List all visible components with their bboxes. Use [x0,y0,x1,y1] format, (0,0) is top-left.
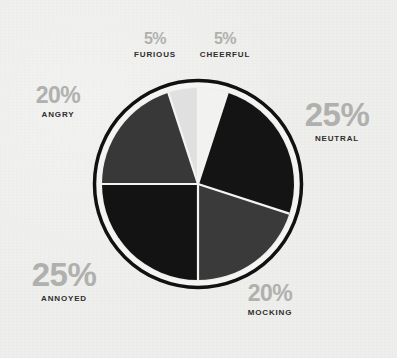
pie-label-angry-value: 20% [6,84,110,107]
pie-label-cheerful[interactable]: 5% CHEERFUL [183,31,267,59]
pie-label-mocking-name: MOCKING [214,309,326,317]
pie-label-annoyed[interactable]: 25% ANNOYED [8,258,120,303]
pie-label-cheerful-value: 5% [183,31,267,47]
pie-label-neutral-name: NEUTRAL [283,135,391,143]
pie-label-mocking-value: 20% [214,282,326,305]
pie-label-annoyed-name: ANNOYED [8,295,120,303]
pie-label-mocking[interactable]: 20% MOCKING [214,282,326,317]
pie-label-neutral[interactable]: 25% NEUTRAL [283,98,391,143]
pie-label-annoyed-value: 25% [8,258,120,291]
pie-label-neutral-value: 25% [283,98,391,131]
pie-label-angry[interactable]: 20% ANGRY [6,84,110,119]
pie-chart-infographic: 5% FURIOUS 5% CHEERFUL 20% ANGRY 25% NEU… [0,0,397,358]
pie-label-cheerful-name: CHEERFUL [183,51,267,59]
pie-label-angry-name: ANGRY [6,111,110,119]
